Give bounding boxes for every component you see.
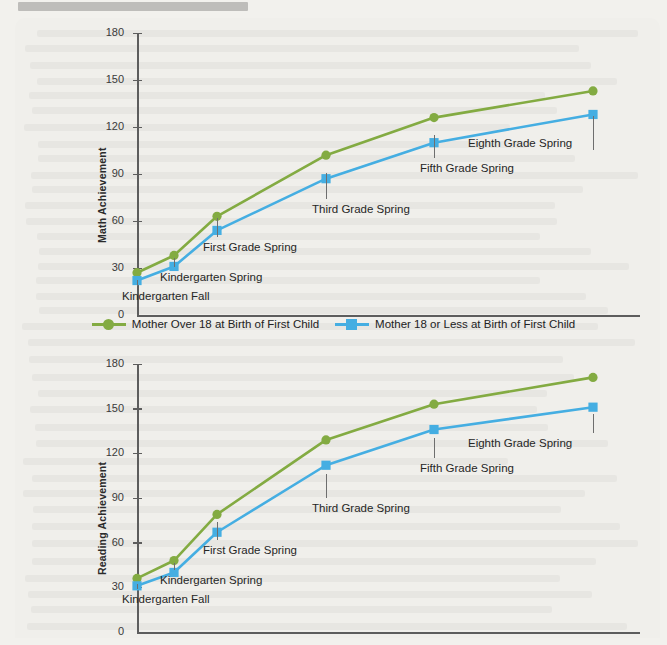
legend-label-18-or-less: Mother 18 or Less at Birth of First Chil… — [375, 318, 575, 330]
x-category-label: Fifth Grade Spring — [420, 162, 514, 174]
y-axis-tick — [133, 268, 142, 270]
annotation-leader-line — [137, 280, 138, 286]
annotation-leader-line — [326, 474, 327, 498]
x-category-label: First Grade Spring — [203, 544, 297, 556]
y-axis-tick — [133, 408, 142, 410]
x-category-label: Kindergarten Fall — [122, 593, 210, 605]
y-axis-tick-label: 180 — [90, 26, 124, 38]
x-axis-line — [137, 632, 640, 634]
annotation-leader-line — [217, 522, 218, 540]
reading-achievement-chart: Reading Achievement 0306090120150180Kind… — [0, 350, 667, 645]
annotation-leader-line — [326, 173, 327, 199]
data-point-marker[interactable] — [429, 113, 438, 122]
data-point-marker[interactable] — [212, 510, 221, 519]
x-category-label: Third Grade Spring — [312, 203, 410, 215]
y-axis-tick-label: 90 — [90, 167, 124, 179]
legend-item-over-18[interactable]: Mother Over 18 at Birth of First Child — [92, 318, 319, 330]
x-category-label: Third Grade Spring — [312, 502, 410, 514]
data-point-marker[interactable] — [588, 86, 597, 95]
y-axis-tick — [133, 498, 142, 500]
legend-label-over-18: Mother Over 18 at Birth of First Child — [132, 318, 319, 330]
chart-page: Math Achievement 0306090120150180Kinderg… — [0, 0, 667, 645]
data-point-marker[interactable] — [429, 400, 438, 409]
x-category-label: First Grade Spring — [203, 241, 297, 253]
y-axis-tick-label: 30 — [90, 580, 124, 592]
legend-circle-icon — [92, 318, 126, 330]
y-axis-tick-label: 30 — [90, 261, 124, 273]
y-axis-tick-label: 150 — [90, 73, 124, 85]
y-axis-tick-label: 120 — [90, 446, 124, 458]
y-axis-tick-label: 60 — [90, 214, 124, 226]
math-plot-area: 0306090120150180Kindergarten FallKinderg… — [0, 18, 667, 318]
annotation-leader-line — [174, 258, 175, 267]
x-category-label: Eighth Grade Spring — [468, 437, 572, 449]
reading-plot-area: 0306090120150180Kindergarten FallKinderg… — [0, 350, 667, 645]
y-axis-tick — [133, 33, 142, 35]
data-point-marker[interactable] — [429, 425, 438, 434]
data-point-marker[interactable] — [321, 151, 330, 160]
y-axis-tick — [133, 127, 142, 129]
y-axis-tick-label: 120 — [90, 120, 124, 132]
annotation-leader-line — [137, 584, 138, 589]
annotation-leader-line — [174, 563, 175, 570]
series-polyline-18-or-less — [137, 407, 593, 586]
legend-square-icon — [335, 318, 369, 330]
y-axis-tick — [133, 80, 142, 82]
annotation-leader-line — [434, 135, 435, 158]
y-axis-tick-label: 90 — [90, 491, 124, 503]
y-axis-tick-label: 0 — [90, 625, 124, 637]
chart-legend: Mother Over 18 at Birth of First Child M… — [0, 318, 667, 330]
x-category-label: Kindergarten Spring — [160, 271, 262, 283]
y-axis-tick — [133, 174, 142, 176]
data-point-marker[interactable] — [588, 403, 597, 412]
math-achievement-chart: Math Achievement 0306090120150180Kinderg… — [0, 18, 667, 318]
annotation-leader-line — [217, 218, 218, 237]
page-top-text-stub — [18, 2, 248, 11]
y-axis-tick — [133, 453, 142, 455]
y-axis-tick — [133, 542, 142, 544]
x-category-label: Kindergarten Fall — [122, 290, 210, 302]
annotation-leader-line — [434, 438, 435, 458]
y-axis-tick-label: 180 — [90, 357, 124, 369]
x-category-label: Eighth Grade Spring — [468, 137, 572, 149]
legend-item-18-or-less[interactable]: Mother 18 or Less at Birth of First Chil… — [335, 318, 575, 330]
y-axis-tick — [133, 221, 142, 223]
data-point-marker[interactable] — [321, 461, 330, 470]
y-axis-tick-label: 150 — [90, 402, 124, 414]
x-category-label: Kindergarten Spring — [160, 574, 262, 586]
data-point-marker[interactable] — [321, 435, 330, 444]
data-point-marker[interactable] — [588, 373, 597, 382]
y-axis-tick — [133, 364, 142, 366]
x-axis-line — [137, 315, 640, 317]
y-axis-tick-label: 60 — [90, 536, 124, 548]
annotation-leader-line — [593, 414, 594, 433]
annotation-leader-line — [593, 116, 594, 150]
x-category-label: Fifth Grade Spring — [420, 462, 514, 474]
